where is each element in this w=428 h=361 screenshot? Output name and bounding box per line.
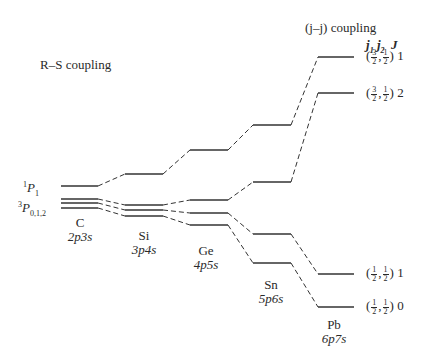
jj-state-label: (32,12) 1 [366, 49, 404, 66]
element-symbol: Ge [186, 244, 226, 258]
term-sub: 0,1,2 [30, 209, 46, 218]
J-value: 2 [397, 85, 404, 100]
jj-state-label: (12,12) 0 [366, 299, 404, 316]
J-value: 1 [397, 48, 404, 63]
element-symbol: Sn [251, 278, 291, 292]
element-config: 5p6s [251, 292, 291, 306]
element-config: 6p7s [314, 332, 354, 346]
jj-state-label: (32,12) 2 [366, 86, 404, 103]
element-symbol: Si [124, 229, 164, 243]
element-Pb: Pb 6p7s [314, 318, 354, 346]
jj-state-label: (12,12) 1 [366, 266, 404, 283]
jj-coupling-title-text: (j–j) coupling [305, 20, 376, 35]
J-value: 1 [397, 265, 404, 280]
element-Si: Si 3p4s [124, 229, 164, 257]
energy-level-diagram [0, 0, 428, 361]
jj-coupling-title: (j–j) coupling [305, 21, 376, 35]
element-C: C 2p3s [60, 216, 100, 244]
term-sub: 1 [35, 189, 39, 198]
element-config: 2p3s [60, 230, 100, 244]
element-Sn: Sn 5p6s [251, 278, 291, 306]
element-symbol: Pb [314, 318, 354, 332]
element-config: 3p4s [124, 243, 164, 257]
rs-coupling-title: R–S coupling [40, 58, 111, 72]
element-config: 4p5s [186, 258, 226, 272]
term-letter: P [27, 180, 35, 195]
element-Ge: Ge 4p5s [186, 244, 226, 272]
J-value: 0 [397, 298, 404, 313]
term-letter: P [22, 200, 30, 215]
term-3P012: 3P0,1,2 [18, 198, 46, 221]
element-symbol: C [60, 216, 100, 230]
